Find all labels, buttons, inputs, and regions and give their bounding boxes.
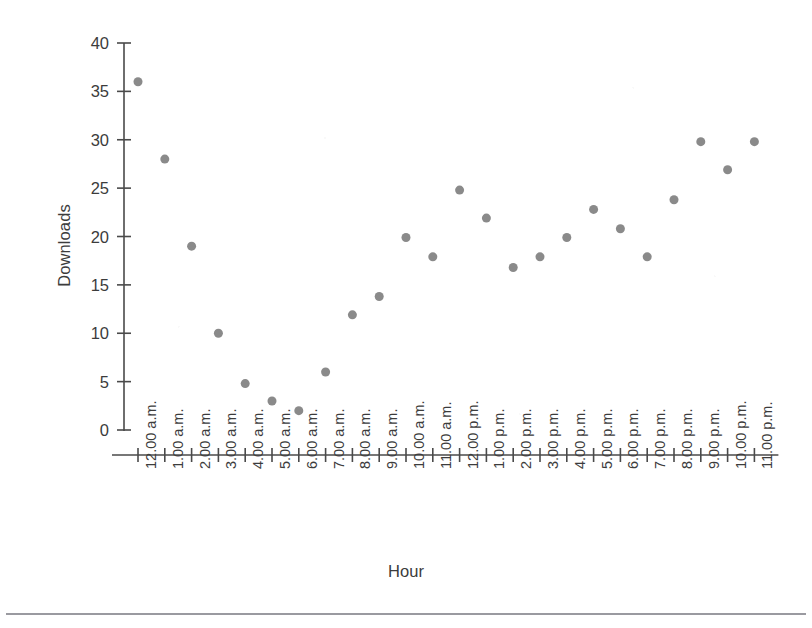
x-axis-tick-label: 6.00 p.m.	[626, 409, 641, 469]
x-axis-tick-label: 2.00 p.m.	[519, 409, 534, 469]
data-point	[616, 224, 625, 233]
data-point	[750, 137, 759, 146]
data-point	[589, 205, 598, 214]
y-axis-tick-label: 15	[61, 277, 109, 294]
data-point	[455, 186, 464, 195]
data-point	[509, 263, 518, 272]
x-axis-tick-label: 5.00 a.m.	[278, 409, 293, 469]
data-point	[294, 406, 303, 415]
data-point	[428, 252, 437, 261]
x-axis-tick-label: 5.00 p.m.	[600, 409, 615, 469]
data-point	[562, 233, 571, 242]
x-axis-tick-label: 2.00 a.m.	[198, 409, 213, 469]
data-point	[482, 214, 491, 223]
x-axis-tick-label: 11.00 a.m.	[439, 402, 454, 469]
x-axis-tick-label: 4.00 p.m.	[573, 409, 588, 469]
y-axis-tick-label: 10	[61, 325, 109, 342]
data-point	[187, 242, 196, 251]
x-axis-tick-label: 1.00 p.m.	[492, 409, 507, 469]
y-axis-tick-label: 25	[61, 180, 109, 197]
data-point	[723, 165, 732, 174]
y-axis-tick-label: 30	[61, 132, 109, 149]
data-point	[160, 155, 169, 164]
data-point	[134, 77, 143, 86]
x-axis-tick-label: 4.00 a.m.	[251, 409, 266, 469]
data-point	[321, 367, 330, 376]
data-point	[268, 396, 277, 405]
y-axis-tick-label: 5	[61, 374, 109, 391]
x-axis-tick-label: 6.00 a.m.	[305, 409, 320, 469]
y-axis-tick-label: 35	[61, 83, 109, 100]
x-axis-tick-label: 3.00 p.m.	[546, 409, 561, 469]
x-axis-tick-label: 10.00 a.m.	[412, 400, 427, 469]
scatter-chart-figure: Downloads Hour 0510152025303540 12.00 a.…	[0, 0, 812, 628]
data-point	[348, 310, 357, 319]
y-axis-tick-label: 20	[61, 229, 109, 246]
data-point	[670, 195, 679, 204]
x-axis-tick-label: 10.00 p.m.	[734, 400, 749, 469]
x-axis-tick-label: 11.00 p.m.	[760, 402, 775, 469]
data-point	[696, 137, 705, 146]
x-axis-tick-label: 9.00 p.m.	[707, 409, 722, 469]
x-axis-tick-label: 8.00 p.m.	[680, 409, 695, 469]
x-axis-tick-label: 3.00 a.m.	[224, 409, 239, 469]
x-axis-title: Hour	[0, 562, 812, 581]
x-axis-tick-label: 1.00 a.m.	[171, 409, 186, 469]
x-axis-tick-label: 7.00 p.m.	[653, 409, 668, 469]
data-point	[536, 252, 545, 261]
x-axis-tick-label: 12.00 a.m.	[144, 400, 159, 469]
data-point	[241, 379, 250, 388]
data-point	[375, 292, 384, 301]
x-axis-tick-label: 12.00 p.m.	[466, 400, 481, 469]
data-point	[643, 252, 652, 261]
data-point	[402, 233, 411, 242]
x-axis-tick-label: 9.00 a.m.	[385, 409, 400, 469]
y-axis-tick-label: 40	[61, 35, 109, 52]
page-divider-rule	[6, 613, 806, 615]
x-axis-tick-label: 7.00 a.m.	[332, 409, 347, 469]
data-point	[214, 329, 223, 338]
y-axis-tick-label: 0	[61, 422, 109, 439]
x-axis-tick-label: 8.00 a.m.	[358, 409, 373, 469]
plot-area	[0, 0, 812, 628]
